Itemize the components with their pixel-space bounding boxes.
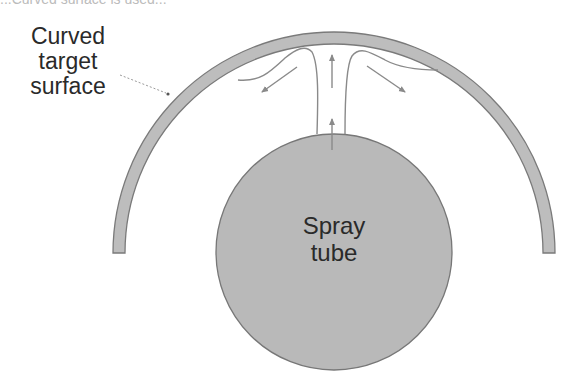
label-line: tube: [284, 239, 384, 266]
arrow-deflect-right: [367, 66, 405, 92]
label-line: surface: [18, 74, 118, 99]
label-pointer-line: [120, 75, 166, 93]
curved-target-surface-label: Curved target surface: [18, 24, 118, 99]
label-line: Curved: [18, 24, 118, 49]
label-line: Spray: [284, 212, 384, 239]
label-line: target: [18, 49, 118, 74]
spray-tube-label: Spray tube: [284, 212, 384, 266]
arrow-deflect-left: [262, 67, 297, 92]
label-pointer-dot: [166, 92, 169, 95]
